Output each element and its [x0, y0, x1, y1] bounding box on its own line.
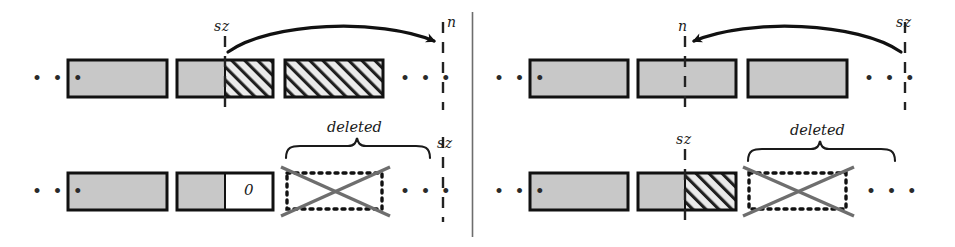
left-top-sz-label: sz: [214, 18, 230, 34]
left-bottom-ellipsis-right: • • •: [400, 183, 453, 200]
left-bottom-sz-label: sz: [437, 135, 453, 151]
right-top-ellipsis-right: • • •: [864, 70, 917, 87]
left-top-row: [68, 22, 443, 110]
left-top-ellipsis-left: • • •: [32, 70, 85, 87]
left-top-block-2-hatched-part: [225, 60, 273, 97]
left-top-n-label: n: [447, 14, 457, 30]
left-bottom-row: [68, 137, 443, 222]
right-bottom-deleted-label: deleted: [790, 122, 845, 138]
right-top-row: [530, 22, 905, 110]
right-bottom-deleted-brace: [748, 141, 895, 161]
left-bottom-deleted-label: deleted: [327, 119, 382, 135]
right-bottom-ellipsis-right: • • •: [866, 183, 919, 200]
right-top-block-3: [748, 60, 847, 97]
figure-canvas: sz n • • • • • • deleted sz 0 • • • • • …: [0, 0, 955, 247]
right-top-arrow: [694, 26, 901, 52]
left-bottom-deleted-brace: [286, 138, 430, 158]
right-top-ellipsis-left: • • •: [494, 70, 547, 87]
right-top-n-label: n: [678, 18, 688, 34]
right-top-sz-label: sz: [896, 14, 912, 30]
right-bottom-ellipsis-left: • • •: [494, 183, 547, 200]
right-bottom-sz-label: sz: [676, 131, 692, 147]
right-top-block-2: [638, 60, 736, 97]
right-bottom-row: [530, 141, 895, 228]
left-bottom-zero-label: 0: [244, 181, 254, 199]
right-bottom-block-2-hatched-part: [685, 173, 736, 210]
left-top-ellipsis-right: • • •: [400, 70, 453, 87]
left-bottom-ellipsis-left: • • •: [32, 183, 85, 200]
left-top-arrow: [228, 26, 434, 52]
left-top-block-3: [285, 60, 383, 97]
